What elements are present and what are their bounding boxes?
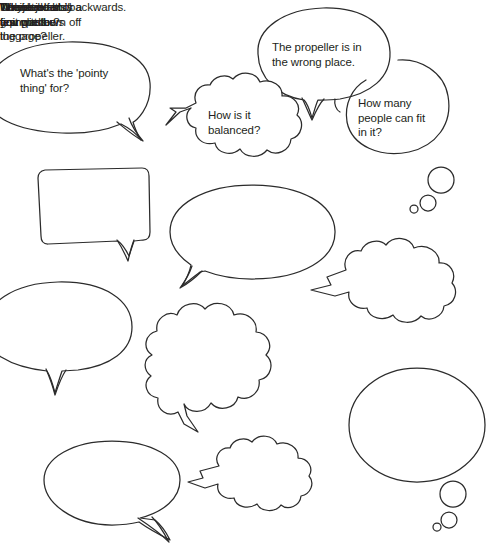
bubble-outlines-layer bbox=[0, 0, 498, 558]
bubble-pointy-thing[interactable] bbox=[0, 42, 150, 141]
thought-dot-large bbox=[440, 481, 466, 507]
thought-dot-small bbox=[433, 523, 441, 531]
thought-dot-medium bbox=[420, 195, 436, 211]
bubble-why-jet-and-propeller[interactable] bbox=[145, 303, 271, 432]
bubble-unbalanced[interactable] bbox=[311, 239, 455, 323]
bubble-no-room-first-class[interactable] bbox=[44, 441, 180, 542]
bubble-few-windows[interactable] bbox=[0, 282, 132, 395]
bubble-where-luggage[interactable] bbox=[349, 368, 485, 531]
thought-dot-medium bbox=[441, 512, 457, 528]
thought-dot-large bbox=[428, 167, 454, 193]
speech-bubble-collage: What's the 'pointy thing' for? The prope… bbox=[0, 0, 498, 558]
thought-dot-small bbox=[410, 205, 418, 213]
bubble-its-backwards[interactable] bbox=[38, 168, 150, 261]
bubble-jet-blast[interactable] bbox=[170, 185, 335, 288]
bubble-terrible[interactable] bbox=[188, 436, 312, 510]
